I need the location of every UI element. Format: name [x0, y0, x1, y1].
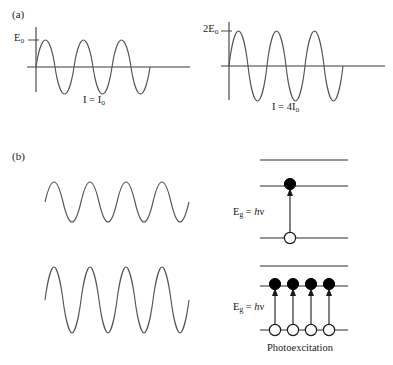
intensity-caption-right-main: I = 4I: [272, 101, 295, 112]
figure-svg: [0, 0, 393, 365]
intensity-caption-left-sub: o: [101, 98, 105, 107]
electron-filled-1: [284, 178, 295, 189]
panel-tag-b: (b): [12, 150, 25, 162]
intensity-caption-right: I = 4Io: [272, 101, 299, 114]
energy-diagram-single: [260, 160, 348, 244]
hole-open-2a: [269, 324, 280, 335]
intensity-caption-left: I = Io: [83, 94, 105, 107]
hole-open-2d: [323, 324, 334, 335]
waveform-b-upper: [45, 182, 189, 222]
electron-filled-2a: [269, 278, 280, 289]
electron-filled-2d: [323, 278, 334, 289]
waveform-b-lower: [45, 267, 189, 333]
electron-filled-2c: [305, 278, 316, 289]
energy-gap-label-lower: Eg = hν: [233, 301, 264, 314]
panel-a-right-axes: [221, 22, 385, 100]
amplitude-label-left: Eo: [14, 32, 24, 45]
amplitude-label-right: 2Eo: [203, 23, 218, 36]
energy-gap-label-upper-eq: =: [243, 206, 254, 217]
hole-open-2b: [287, 324, 298, 335]
amplitude-label-right-sub: o: [215, 27, 219, 36]
amplitude-label-left-sub: o: [20, 36, 24, 45]
amplitude-label-right-main: 2E: [203, 23, 215, 34]
panel-tag-a: (a): [12, 8, 24, 20]
figure-root: (a) Eo I = Io 2Eo I = 4Io (b) Eg = hν Eg…: [0, 0, 393, 365]
energy-diagram-multiple: [260, 266, 348, 336]
electron-filled-2b: [287, 278, 298, 289]
energy-gap-label-lower-nu: ν: [260, 301, 265, 312]
hole-open-2c: [305, 324, 316, 335]
photoexcitation-caption: Photoexcitation: [267, 342, 333, 353]
intensity-caption-right-sub: o: [295, 105, 299, 114]
energy-gap-label-lower-eq: =: [243, 301, 254, 312]
hole-open-1: [284, 232, 295, 243]
energy-gap-label-upper: Eg = hν: [233, 206, 264, 219]
energy-gap-label-upper-nu: ν: [260, 206, 265, 217]
intensity-caption-left-main: I = I: [83, 94, 101, 105]
